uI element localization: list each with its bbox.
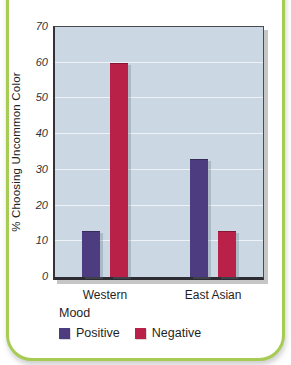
plot-area	[53, 26, 264, 280]
legend-items: PositiveNegative	[59, 326, 201, 340]
y-tick-label-60: 60	[20, 56, 48, 69]
legend-label-negative: Negative	[152, 326, 201, 340]
y-tick-label-10: 10	[20, 234, 48, 247]
x-category-label-western: Western	[50, 288, 160, 302]
y-tick-label-0: 0	[20, 270, 48, 283]
x-category-label-east-asian: East Asian	[158, 288, 268, 302]
gridline-50	[55, 97, 263, 98]
legend-title: Mood	[59, 306, 201, 320]
y-tick-label-40: 40	[20, 127, 48, 140]
gridline-60	[55, 62, 263, 63]
gridline-30	[55, 169, 263, 170]
gridline-40	[55, 133, 263, 134]
legend-swatch-negative	[135, 328, 146, 339]
legend-label-positive: Positive	[76, 326, 120, 340]
y-tick-label-20: 20	[20, 199, 48, 212]
gridline-20	[55, 205, 263, 206]
legend-item-positive: Positive	[59, 326, 120, 340]
legend-item-negative: Negative	[135, 326, 201, 340]
legend: Mood PositiveNegative	[59, 306, 201, 340]
bar-western-positive	[82, 231, 100, 277]
bar-east-asian-negative	[218, 231, 236, 277]
y-tick-label-30: 30	[20, 163, 48, 176]
bar-east-asian-positive	[190, 159, 208, 277]
y-tick-label-50: 50	[20, 91, 48, 104]
y-tick-label-70: 70	[20, 20, 48, 33]
legend-swatch-positive	[59, 328, 70, 339]
bar-western-negative	[110, 63, 128, 277]
